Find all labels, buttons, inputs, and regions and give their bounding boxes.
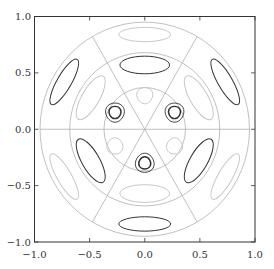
light-middle-contour [71,72,111,124]
x-axis: −1.0 −0.5 0.0 0.5 1.0 [22,249,263,260]
light-inner-contour [107,138,123,154]
light-outer-contour [119,27,171,41]
y-tick-label: 0.0 [15,124,31,135]
y-axis: 1.0 0.5 0.0 −0.5 −1.0 [7,11,31,248]
y-tick-label: −0.5 [7,180,31,191]
light-middle-contour [179,72,219,124]
dark-outer-contour [119,217,171,231]
y-tick-label: −1.0 [7,237,31,248]
light-inner-contour [167,138,183,154]
dark-inner-contour-inner [169,106,181,118]
dark-middle-contour [179,135,219,187]
x-tick-label: −1.0 [22,249,46,260]
dark-middle-contour [71,135,111,187]
light-inner-contour [137,88,153,104]
dark-middle-contour [120,56,170,74]
dark-inner-contour-inner [139,157,151,169]
dark-inner-contour-inner [109,106,121,118]
plot-area [40,22,249,236]
y-tick-label: 1.0 [15,11,31,22]
x-tick-label: 0.5 [192,249,208,260]
light-middle-contour [120,185,170,203]
x-tick-label: −0.5 [77,249,101,260]
y-tick-label: 0.5 [15,67,31,78]
x-tick-label: 1.0 [247,249,263,260]
contour-chart: −1.0 −0.5 0.0 0.5 1.0 1.0 0.5 0.0 −0.5 −… [0,0,274,269]
x-tick-label: 0.0 [137,249,153,260]
